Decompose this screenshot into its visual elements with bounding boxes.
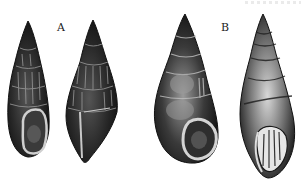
shell-a-apertural (8, 21, 49, 157)
shell-a-lateral (66, 20, 117, 162)
shells-illustration (0, 0, 301, 188)
shell-b-oblique (240, 14, 295, 178)
shell-plate: A B (0, 0, 301, 188)
shell-b-apertural (154, 14, 218, 163)
